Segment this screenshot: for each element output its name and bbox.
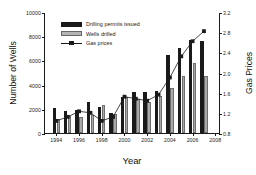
gas-price-marker (77, 109, 81, 113)
y-tick-label: 8000 (29, 34, 41, 40)
x-tick-label: 2004 (164, 137, 176, 143)
y2-tick-label: 2.0 (223, 71, 231, 77)
y2-tick-label: 2.8 (223, 30, 231, 36)
legend-swatch-permits-icon (61, 22, 82, 27)
x-tick-label: 1996 (73, 137, 85, 143)
y2-tick-label: 3.2 (223, 10, 231, 16)
gas-price-marker (123, 95, 127, 99)
gas-price-marker (157, 93, 161, 97)
plot-area: 0200040006000800010000 0.81.21.62.02.42.… (44, 13, 220, 134)
y-tick-label: 6000 (29, 58, 41, 64)
y2-axis-title-wrap: Gas Prices (243, 0, 255, 175)
y-tick-label: 2000 (29, 107, 41, 113)
y-tick-label: 4000 (29, 83, 41, 89)
legend-swatch-line-icon (61, 41, 82, 46)
y2-tick-label: 0.8 (223, 131, 231, 137)
gas-price-marker (168, 76, 172, 80)
y2-tick-label: 2.4 (223, 50, 231, 56)
legend-item: Wells drilled (61, 30, 140, 38)
gas-price-marker (134, 97, 138, 101)
y-axis-title-wrap: Number of Wells (11, 0, 23, 175)
gas-price-marker (66, 115, 70, 119)
gas-price-marker (54, 119, 58, 123)
y2-axis-title: Gas Prices (244, 52, 254, 94)
y-tick-label: 0 (38, 131, 41, 137)
chart-legend: Drilling permits issuedWells drilledGas … (61, 20, 140, 49)
x-tick-label: 1998 (96, 137, 108, 143)
y-tick-label: 10000 (26, 10, 41, 16)
legend-swatch-wells-icon (61, 31, 82, 36)
y-tick (42, 134, 45, 135)
gas-price-marker (202, 29, 206, 33)
gas-price-marker (100, 119, 104, 123)
chart-figure: Number of Wells Gas Prices Year 02000400… (0, 0, 256, 175)
gas-price-marker (191, 39, 195, 43)
x-tick-label: 2002 (141, 137, 153, 143)
y2-tick-label: 1.2 (223, 111, 231, 117)
legend-label: Drilling permits issued (86, 21, 140, 27)
legend-label: Wells drilled (86, 31, 116, 37)
gas-price-marker (179, 54, 183, 58)
legend-label: Gas prices (86, 40, 112, 46)
gas-price-marker (145, 99, 149, 103)
x-tick-label: 2000 (118, 137, 130, 143)
legend-item: Gas prices (61, 39, 140, 47)
x-axis-title: Year (123, 155, 142, 166)
legend-item: Drilling permits issued (61, 20, 140, 28)
x-tick-label: 1994 (50, 137, 62, 143)
y-axis-title: Number of Wells (8, 41, 18, 104)
gas-price-marker (89, 111, 93, 115)
y2-tick (219, 134, 222, 135)
y2-tick-label: 1.6 (223, 91, 231, 97)
x-tick-label: 2006 (187, 137, 199, 143)
x-tick-label: 2008 (209, 137, 221, 143)
gas-price-marker (111, 115, 115, 119)
